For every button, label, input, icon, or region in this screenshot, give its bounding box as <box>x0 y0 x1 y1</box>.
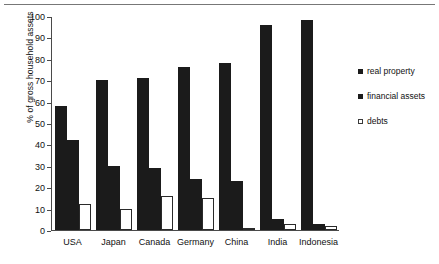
y-tick <box>47 17 51 18</box>
plot-area: 0102030405060708090100 USAJapanCanadaGer… <box>51 17 339 231</box>
legend-item: financial assets <box>358 91 425 101</box>
legend-label: real property <box>367 66 415 76</box>
top-divider <box>4 4 435 5</box>
y-tick <box>47 231 51 232</box>
y-axis-title: % of gross household assets <box>25 0 35 157</box>
bar <box>120 209 132 230</box>
bar-group: India <box>257 17 298 230</box>
bar <box>202 198 214 230</box>
x-axis-label: Canada <box>139 237 171 247</box>
bar <box>190 179 202 230</box>
bar-group: Japan <box>93 17 134 230</box>
y-tick-label: 100 <box>30 12 45 22</box>
legend-swatch-icon <box>358 69 363 74</box>
y-tick <box>47 210 51 211</box>
legend-label: debts <box>367 116 388 126</box>
bar <box>325 226 337 230</box>
x-axis-label: Indonesia <box>299 237 338 247</box>
y-tick-label: 30 <box>35 162 45 172</box>
bar-group: USA <box>52 17 93 230</box>
bar <box>161 196 173 230</box>
legend-swatch-icon <box>358 94 363 99</box>
legend-item: debts <box>358 116 425 126</box>
bar <box>79 204 91 230</box>
legend-label: financial assets <box>367 91 425 101</box>
bar-groups: USAJapanCanadaGermanyChinaIndiaIndonesia <box>52 17 339 230</box>
x-axis-label: USA <box>63 237 82 247</box>
y-tick-label: 70 <box>35 76 45 86</box>
chart-legend: real propertyfinancial assetsdebts <box>358 66 425 126</box>
bar-group: Canada <box>134 17 175 230</box>
bar <box>137 78 149 230</box>
y-tick <box>47 103 51 104</box>
bar <box>260 25 272 230</box>
legend-swatch-icon <box>358 119 363 124</box>
y-tick <box>47 145 51 146</box>
bar <box>301 20 313 230</box>
y-tick <box>47 124 51 125</box>
bar <box>272 219 284 230</box>
bar <box>178 67 190 230</box>
bar <box>149 168 161 230</box>
bar-group: Indonesia <box>298 17 339 230</box>
bar <box>108 166 120 230</box>
y-tick-label: 60 <box>35 98 45 108</box>
y-tick <box>47 60 51 61</box>
legend-item: real property <box>358 66 425 76</box>
y-tick <box>47 188 51 189</box>
bar-chart: % of gross household assets 010203040506… <box>0 0 439 264</box>
y-tick-label: 90 <box>35 33 45 43</box>
y-tick <box>47 167 51 168</box>
x-axis-label: India <box>268 237 288 247</box>
bar <box>313 224 325 230</box>
y-tick <box>47 38 51 39</box>
x-axis-label: Japan <box>101 237 126 247</box>
bar-group: China <box>216 17 257 230</box>
bar <box>55 106 67 230</box>
y-tick-label: 20 <box>35 183 45 193</box>
y-tick-label: 80 <box>35 55 45 65</box>
x-axis-label: Germany <box>177 237 214 247</box>
bar <box>284 224 296 230</box>
bar <box>67 140 79 230</box>
y-tick-label: 40 <box>35 140 45 150</box>
x-axis-label: China <box>225 237 249 247</box>
bar <box>219 63 231 230</box>
bar <box>243 228 255 230</box>
y-tick-label: 0 <box>40 226 45 236</box>
y-tick <box>47 81 51 82</box>
bar <box>231 181 243 230</box>
bar <box>96 80 108 230</box>
y-tick-label: 50 <box>35 119 45 129</box>
bar-group: Germany <box>175 17 216 230</box>
y-tick-label: 10 <box>35 205 45 215</box>
x-axis-line <box>51 230 339 231</box>
